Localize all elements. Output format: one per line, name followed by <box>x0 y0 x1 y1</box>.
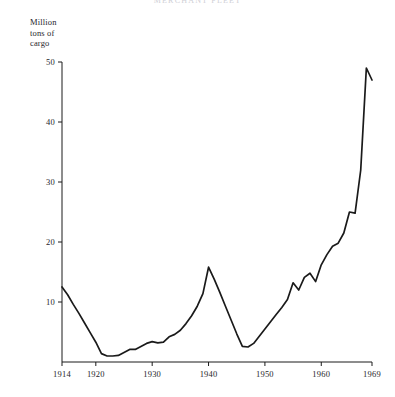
x-axis-ticks: 1914192019301940195019601969 <box>53 362 381 379</box>
y-tick-label: 20 <box>46 237 55 247</box>
chart-page: MERCHANT FLEET Million tons of cargo 102… <box>0 0 395 397</box>
cargo-tonnage-series <box>62 68 372 356</box>
x-tick-label: 1914 <box>53 369 71 379</box>
y-tick-label: 10 <box>46 297 55 307</box>
y-tick-label: 30 <box>46 177 55 187</box>
x-tick-label: 1940 <box>200 369 218 379</box>
x-tick-label: 1920 <box>87 369 105 379</box>
y-axis-ticks: 1020304050 <box>46 57 62 307</box>
y-axis: 1020304050 <box>46 57 62 362</box>
x-axis: 1914192019301940195019601969 <box>53 362 381 379</box>
y-tick-label: 50 <box>46 57 55 67</box>
line-chart: 1020304050 1914192019301940195019601969 <box>0 0 395 397</box>
x-tick-label: 1960 <box>312 369 330 379</box>
x-tick-label: 1950 <box>256 369 274 379</box>
x-tick-label: 1930 <box>143 369 161 379</box>
y-tick-label: 40 <box>46 117 55 127</box>
x-tick-label: 1969 <box>363 369 381 379</box>
